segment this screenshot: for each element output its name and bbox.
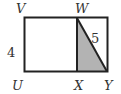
label-u: U — [12, 78, 24, 93]
label-hypotenuse-5: 5 — [91, 31, 99, 46]
label-x: X — [73, 78, 84, 93]
geometry-diagram: V W U X Y 4 5 — [0, 0, 121, 94]
label-v: V — [16, 1, 27, 16]
label-y: Y — [104, 78, 114, 93]
label-w: W — [75, 1, 90, 16]
label-side-4: 4 — [7, 45, 15, 60]
